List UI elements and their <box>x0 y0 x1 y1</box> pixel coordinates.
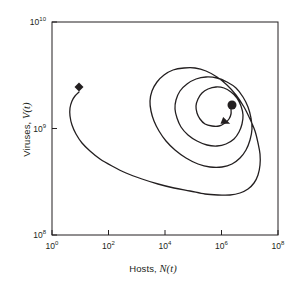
x-tick-label: 102 <box>102 241 115 251</box>
fixed-point-marker <box>228 101 237 110</box>
phase-portrait-figure: 100102104106108 1081091010 Hosts, N(t) V… <box>0 0 306 285</box>
y-tick-label: 108 <box>8 230 46 240</box>
x-tick-label: 100 <box>46 241 59 251</box>
x-tick-label: 106 <box>215 241 228 251</box>
x-tick-label: 104 <box>159 241 172 251</box>
y-axis-title-argument: (t) <box>21 102 32 112</box>
x-axis-title-argument: (t) <box>167 263 177 274</box>
plot-frame <box>52 22 278 235</box>
x-axis-title: Hosts, N(t) <box>0 263 306 274</box>
y-axis-title-variable: V <box>21 113 32 120</box>
y-tick-label: 1010 <box>8 17 46 27</box>
x-axis-title-prefix: Hosts, <box>129 263 159 274</box>
x-tick-label: 108 <box>272 241 285 251</box>
y-axis-title: Viruses, V(t) <box>21 50 32 210</box>
x-axis-title-variable: N <box>159 263 166 274</box>
y-axis-title-prefix: Viruses, <box>21 119 32 157</box>
